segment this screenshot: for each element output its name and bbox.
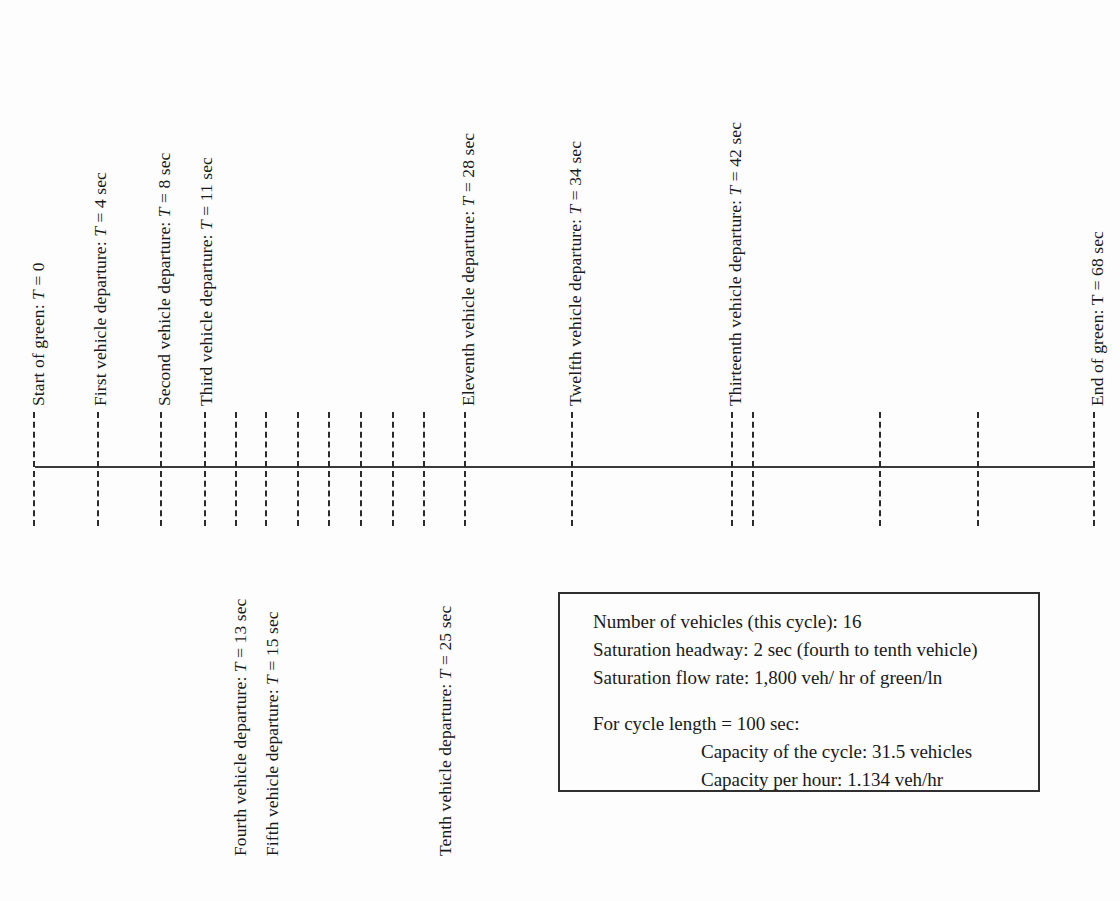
timeline-tick-t42 bbox=[731, 412, 733, 526]
label-tenth-vehicle-prefix: Tenth vehicle departure: bbox=[435, 679, 455, 856]
label-third-vehicle: Third vehicle departure: T = 11 sec bbox=[198, 157, 216, 406]
timeline-tick-t56 bbox=[977, 412, 979, 526]
label-third-vehicle-value: = 11 sec bbox=[196, 157, 216, 220]
label-thirteenth-vehicle-value: = 42 sec bbox=[725, 122, 745, 186]
timeline-tick-t11 bbox=[204, 412, 206, 526]
label-twelfth-vehicle-value: = 34 sec bbox=[565, 141, 585, 205]
info-saturation-flow-rate: Saturation flow rate: 1,800 veh/ hr of g… bbox=[593, 664, 1028, 692]
timeline-tick-t25 bbox=[423, 412, 425, 526]
timeline-tick-t43 bbox=[752, 412, 754, 526]
timeline-tick-t4 bbox=[97, 412, 99, 526]
timeline-tick-t28 bbox=[464, 412, 466, 526]
timeline-figure: Start of green: T = 0First vehicle depar… bbox=[0, 0, 1120, 901]
timeline-tick-t68 bbox=[1093, 412, 1095, 526]
label-tenth-vehicle: Tenth vehicle departure: T = 25 sec bbox=[437, 606, 455, 856]
label-fifth-vehicle-prefix: Fifth vehicle departure: bbox=[262, 685, 282, 856]
timeline-tick-t0 bbox=[33, 412, 35, 526]
label-start-of-green-prefix: Start of green: bbox=[28, 300, 48, 406]
timeline-tick-t34 bbox=[571, 412, 573, 526]
info-capacity-per-hour: Capacity per hour: 1.134 veh/hr bbox=[593, 766, 1028, 794]
label-thirteenth-vehicle-symbol: T bbox=[725, 186, 745, 196]
info-number-of-vehicles: Number of vehicles (this cycle): 16 bbox=[593, 608, 1028, 636]
label-second-vehicle: Second vehicle departure: T = 8 sec bbox=[156, 153, 174, 406]
label-third-vehicle-prefix: Third vehicle departure: bbox=[196, 230, 216, 406]
label-eleventh-vehicle-value: = 28 sec bbox=[458, 133, 478, 197]
label-twelfth-vehicle-prefix: Twelfth vehicle departure: bbox=[565, 215, 585, 406]
timeline-axis bbox=[35, 466, 1095, 468]
timeline-tick-t15 bbox=[265, 412, 267, 526]
label-second-vehicle-value: = 8 sec bbox=[154, 153, 174, 208]
label-first-vehicle-symbol: T bbox=[90, 227, 110, 237]
label-start-of-green-value: = 0 bbox=[28, 262, 48, 290]
label-end-of-green: End of green: T = 68 sec bbox=[1089, 231, 1107, 406]
label-thirteenth-vehicle-prefix: Thirteenth vehicle departure: bbox=[725, 196, 745, 406]
label-fourth-vehicle-symbol: T bbox=[230, 662, 250, 672]
label-first-vehicle: First vehicle departure: T = 4 sec bbox=[92, 172, 110, 406]
label-tenth-vehicle-value: = 25 sec bbox=[435, 606, 455, 670]
label-fifth-vehicle: Fifth vehicle departure: T = 15 sec bbox=[264, 611, 282, 856]
label-end-of-green-symbol: T bbox=[1087, 295, 1107, 305]
label-twelfth-vehicle: Twelfth vehicle departure: T = 34 sec bbox=[567, 141, 585, 406]
label-second-vehicle-prefix: Second vehicle departure: bbox=[154, 217, 174, 406]
label-eleventh-vehicle-symbol: T bbox=[458, 197, 478, 207]
label-twelfth-vehicle-symbol: T bbox=[565, 205, 585, 215]
label-tenth-vehicle-symbol: T bbox=[435, 669, 455, 679]
timeline-tick-t19 bbox=[328, 412, 330, 526]
label-end-of-green-value: = 68 sec bbox=[1087, 231, 1107, 295]
label-start-of-green: Start of green: T = 0 bbox=[30, 262, 48, 406]
info-spacer bbox=[593, 692, 1028, 710]
label-first-vehicle-value: = 4 sec bbox=[90, 172, 110, 227]
label-start-of-green-symbol: T bbox=[28, 290, 48, 300]
timeline-tick-t17 bbox=[297, 412, 299, 526]
info-capacity-of-cycle: Capacity of the cycle: 31.5 vehicles bbox=[593, 738, 1028, 766]
label-second-vehicle-symbol: T bbox=[154, 207, 174, 217]
label-fourth-vehicle-value: = 13 sec bbox=[230, 599, 250, 663]
label-eleventh-vehicle-prefix: Eleventh vehicle departure: bbox=[458, 206, 478, 406]
info-saturation-headway: Saturation headway: 2 sec (fourth to ten… bbox=[593, 636, 1028, 664]
label-first-vehicle-prefix: First vehicle departure: bbox=[90, 237, 110, 406]
info-cycle-length: For cycle length = 100 sec: bbox=[593, 710, 1028, 738]
label-eleventh-vehicle: Eleventh vehicle departure: T = 28 sec bbox=[460, 133, 478, 406]
timeline-tick-t13 bbox=[235, 412, 237, 526]
summary-info-box: Number of vehicles (this cycle): 16Satur… bbox=[558, 592, 1040, 792]
timeline-tick-t50 bbox=[879, 412, 881, 526]
label-fifth-vehicle-value: = 15 sec bbox=[262, 611, 282, 675]
summary-info-lines: Number of vehicles (this cycle): 16Satur… bbox=[593, 608, 1028, 794]
timeline-tick-t8 bbox=[160, 412, 162, 526]
label-fifth-vehicle-symbol: T bbox=[262, 675, 282, 685]
timeline-tick-t21 bbox=[360, 412, 362, 526]
label-end-of-green-prefix: End of green: bbox=[1087, 305, 1107, 406]
label-thirteenth-vehicle: Thirteenth vehicle departure: T = 42 sec bbox=[727, 122, 745, 406]
label-fourth-vehicle-prefix: Fourth vehicle departure: bbox=[230, 672, 250, 856]
timeline-tick-t23 bbox=[392, 412, 394, 526]
label-third-vehicle-symbol: T bbox=[196, 220, 216, 230]
label-fourth-vehicle: Fourth vehicle departure: T = 13 sec bbox=[232, 599, 250, 856]
